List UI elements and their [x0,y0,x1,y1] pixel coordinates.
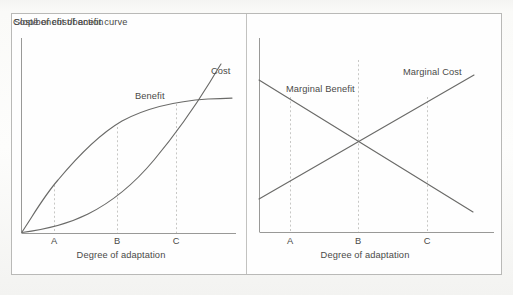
right-chart-plot [0,0,513,295]
right-tick-b: B [355,236,361,246]
right-tick-c: C [424,236,431,246]
right-marginal-cost-label: Marginal Cost [403,67,462,77]
figure-root: Cost/benefit of action A B C Degree of a… [0,0,513,295]
right-marginal-benefit-label: Marginal Benefit [286,84,355,94]
right-tick-a: A [287,236,293,246]
right-marginal-benefit-line [259,80,473,212]
right-x-axis-title: Degree of adaptation [321,250,410,260]
